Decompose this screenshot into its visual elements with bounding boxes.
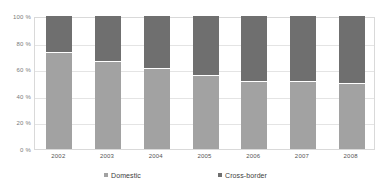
- bar-segment-cross-border[interactable]: [193, 16, 219, 75]
- y-tick-label: 60 %: [1, 67, 31, 74]
- legend-swatch-icon: [104, 173, 108, 177]
- bar-segment-domestic[interactable]: [339, 83, 365, 150]
- bar-segment-domestic[interactable]: [290, 81, 316, 149]
- bar-group[interactable]: [290, 16, 316, 149]
- x-tick-label: 2006: [233, 153, 273, 159]
- x-tick-label: 2007: [282, 153, 322, 159]
- chart-legend: DomesticCross-border: [0, 172, 387, 186]
- bar-group[interactable]: [95, 16, 121, 149]
- legend-item-domestic[interactable]: Domestic: [104, 172, 141, 179]
- bar-segment-cross-border[interactable]: [241, 16, 267, 81]
- x-tick-label: 2005: [185, 153, 225, 159]
- y-tick-label: 80 %: [1, 40, 31, 47]
- y-tick-label: 100 %: [1, 14, 31, 21]
- bar-group[interactable]: [193, 16, 219, 149]
- y-tick-label: 20 %: [1, 120, 31, 127]
- y-axis: 0 %20 %40 %60 %80 %100 %: [0, 17, 31, 150]
- bar-group[interactable]: [339, 16, 365, 149]
- x-tick-label: 2008: [331, 153, 371, 159]
- bar-segment-domestic[interactable]: [95, 61, 121, 149]
- y-tick-label: 0 %: [1, 147, 31, 154]
- bar-segment-domestic[interactable]: [46, 52, 72, 149]
- bar-segment-domestic[interactable]: [193, 75, 219, 149]
- bar-segment-domestic[interactable]: [144, 68, 170, 149]
- stacked-bar-chart: 0 %20 %40 %60 %80 %100 % 200220032004200…: [0, 0, 387, 194]
- legend-swatch-icon: [218, 173, 222, 177]
- bar-segment-domestic[interactable]: [241, 81, 267, 149]
- legend-label: Cross-border: [225, 172, 267, 179]
- y-tick-label: 40 %: [1, 93, 31, 100]
- bar-group[interactable]: [46, 16, 72, 149]
- bar-segment-cross-border[interactable]: [95, 16, 121, 61]
- legend-item-cross-border[interactable]: Cross-border: [218, 172, 267, 179]
- bar-segment-cross-border[interactable]: [339, 16, 365, 83]
- bar-group[interactable]: [144, 16, 170, 149]
- x-axis: 2002200320042005200620072008: [34, 153, 375, 165]
- bar-segment-cross-border[interactable]: [144, 16, 170, 68]
- bar-segment-cross-border[interactable]: [46, 16, 72, 52]
- bar-segment-cross-border[interactable]: [290, 16, 316, 81]
- x-tick-label: 2003: [87, 153, 127, 159]
- legend-label: Domestic: [111, 172, 141, 179]
- x-tick-label: 2004: [136, 153, 176, 159]
- bar-group[interactable]: [241, 16, 267, 149]
- plot-area: [34, 17, 375, 150]
- x-tick-label: 2002: [38, 153, 78, 159]
